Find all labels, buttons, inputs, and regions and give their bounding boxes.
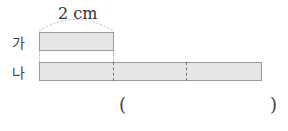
bar-na-divider-1 xyxy=(113,62,114,81)
bar-ga xyxy=(39,32,114,51)
guide-line-left xyxy=(39,51,40,62)
bar-na xyxy=(39,62,262,81)
answer-close-paren: ) xyxy=(270,94,277,115)
answer-open-paren: ( xyxy=(119,94,126,115)
bar-ga-label: 가 xyxy=(12,32,25,52)
bar-na-label: 나 xyxy=(12,62,25,82)
measure-label: 2 cm xyxy=(58,4,97,23)
bar-na-divider-2 xyxy=(186,62,187,81)
guide-line-right xyxy=(113,51,114,62)
answer-blank[interactable] xyxy=(132,96,266,118)
